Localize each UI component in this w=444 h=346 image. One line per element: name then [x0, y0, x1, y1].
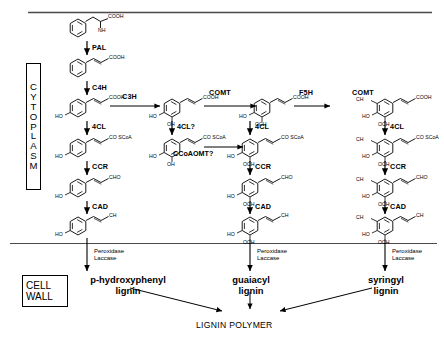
- enzyme-label-cad-col3: CAD: [255, 202, 271, 211]
- group-label-cooh: COOH: [109, 94, 125, 100]
- enzyme-label-c4h: C4H: [92, 83, 107, 92]
- group-label-ho: HO: [227, 193, 235, 199]
- group-label-ho: HO: [149, 153, 157, 159]
- product-line-2: lignin: [212, 285, 290, 296]
- cell-wall-line-1: CELL: [26, 280, 51, 291]
- product-line-2: lignin: [348, 285, 424, 296]
- group-label-och3: OCH: [378, 201, 390, 207]
- enzyme-label-laccase-col1: Laccase: [94, 255, 116, 262]
- product-line-1: syringyl: [348, 274, 424, 285]
- group-label-och3: OCH: [243, 201, 255, 207]
- group-label-och3: OCH: [243, 239, 255, 245]
- group-label-ch2oh: CH: [109, 212, 117, 218]
- enzyme-label-ccr-col3: CCR: [255, 162, 271, 171]
- group-label-oh: OH: [167, 161, 175, 167]
- group-label-oh: OH: [167, 121, 175, 127]
- group-label-cooh: COOH: [416, 94, 432, 100]
- product-label-lignin-polymer: LIGNIN POLYMER: [196, 320, 273, 330]
- product-line-1: guaiacyl: [212, 274, 290, 285]
- enzyme-label-4cl-col4: 4CL: [390, 122, 404, 131]
- figure-canvas: C Y T O P L A S M CELL WALL PAL C4H C3H …: [0, 0, 444, 346]
- product-label-syringyl-lignin: syringyl lignin: [348, 274, 424, 296]
- enzyme-label-pal: PAL: [92, 43, 106, 52]
- group-label-ho: HO: [362, 231, 370, 237]
- group-label-ch3o: CH: [356, 136, 364, 142]
- group-label-och3: OCH: [243, 161, 255, 167]
- group-label-ho: HO: [362, 113, 370, 119]
- group-label-nh2: NH: [98, 27, 106, 33]
- group-label-och3: OCH: [378, 239, 390, 245]
- enzyme-label-laccase-col2: Laccase: [257, 255, 279, 262]
- group-label-cooh: COOH: [108, 13, 124, 19]
- group-label-co-scoa: CO SCoA: [416, 134, 439, 140]
- group-label-ho: HO: [55, 193, 63, 199]
- product-line-1: p-hydroxyphenyl: [68, 274, 188, 285]
- group-label-cho: CHO: [281, 174, 293, 180]
- enzyme-label-4cl-col2: 4CL?: [177, 122, 195, 131]
- group-label-och3: OCH: [255, 121, 267, 127]
- group-label-ho: HO: [227, 153, 235, 159]
- cell-wall-compartment-label: CELL WALL: [22, 275, 68, 307]
- group-label-co-scoa: CO SCoA: [281, 134, 304, 140]
- enzyme-label-cad-col4: CAD: [390, 202, 406, 211]
- group-label-ch2oh: CH: [281, 212, 289, 218]
- group-label-ho: HO: [55, 153, 63, 159]
- group-label-co-scoa: CO SCoA: [203, 134, 226, 140]
- group-label-ho: HO: [362, 193, 370, 199]
- product-line-2: lignin: [68, 285, 188, 296]
- enzyme-label-ccoaomt: CCoAOMT?: [173, 149, 213, 158]
- group-label-ho: HO: [149, 113, 157, 119]
- group-label-cooh: COOH: [109, 54, 125, 60]
- cytoplasm-compartment-label: C Y T O P L A S M: [26, 63, 41, 190]
- group-label-ch3o: CH: [356, 176, 364, 182]
- group-label-cooh: COOH: [293, 94, 309, 100]
- product-label-p-hydroxyphenyl-lignin: p-hydroxyphenyl lignin: [68, 274, 188, 296]
- product-label-guaiacyl-lignin: guaiacyl lignin: [212, 274, 290, 296]
- group-label-cooh: COOH: [203, 94, 219, 100]
- group-label-ch2oh: CH: [416, 212, 424, 218]
- group-label-ho: HO: [239, 113, 247, 119]
- cell-wall-line-2: WALL: [26, 291, 53, 302]
- enzyme-label-ccr-col1: CCR: [92, 162, 108, 171]
- group-label-och3: OCH: [378, 161, 390, 167]
- group-label-ch3o: CH: [356, 96, 364, 102]
- group-label-ho: HO: [55, 113, 63, 119]
- group-label-co-scoa: CO SCoA: [109, 134, 132, 140]
- enzyme-label-4cl-col1: 4CL: [92, 122, 106, 131]
- enzyme-label-laccase-col3: Laccase: [392, 255, 414, 262]
- enzyme-label-cad-col1: CAD: [92, 202, 108, 211]
- group-label-cho: CHO: [416, 174, 428, 180]
- group-label-och3: OCH: [378, 121, 390, 127]
- group-label-cho: CHO: [109, 174, 121, 180]
- group-label-ho: HO: [362, 153, 370, 159]
- cytoplasm-letter: M: [30, 161, 38, 171]
- group-label-ch3o: CH: [356, 214, 364, 220]
- group-label-ho: HO: [55, 231, 63, 237]
- group-label-ho: HO: [227, 231, 235, 237]
- enzyme-label-ccr-col4: CCR: [390, 162, 406, 171]
